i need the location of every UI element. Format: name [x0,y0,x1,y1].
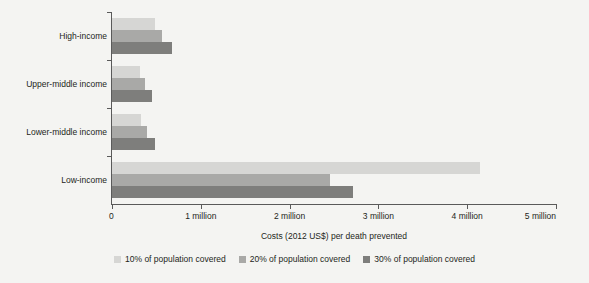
bar [112,162,480,174]
bar [112,114,141,126]
x-axis-tick [290,204,291,209]
legend-item: 30% of population covered [363,254,475,264]
bar [112,42,172,54]
bar [112,18,155,30]
x-axis-title: Costs (2012 US$) per death prevented [112,231,556,241]
legend-label: 30% of population covered [374,254,475,264]
bar [112,138,155,150]
x-axis-tick [467,204,468,209]
chart-figure: Country income level High-incomeUpper-mi… [0,0,589,283]
plot-area: 01 million2 million3 million4 million5 m… [112,12,556,204]
x-axis-tick [112,204,113,209]
bar [112,174,330,186]
x-axis-tick-label: 2 million [274,211,305,222]
x-axis-tick [556,204,557,209]
y-axis-tick [107,12,112,13]
legend-item: 20% of population covered [239,254,351,264]
legend-swatch-icon [363,256,370,263]
chart-legend: 10% of population covered20% of populati… [0,254,589,264]
x-axis-line [111,204,556,205]
legend-swatch-icon [114,256,121,263]
legend-item: 10% of population covered [114,254,226,264]
bar [112,78,145,90]
x-axis-tick [201,204,202,209]
y-axis-tick [107,156,112,157]
legend-swatch-icon [239,256,246,263]
bar [112,66,140,78]
x-axis-tick-label: 0 [109,211,114,222]
x-axis-tick [378,204,379,209]
x-axis-tick-label: 3 million [363,211,394,222]
category-label: Upper-middle income [14,79,107,89]
bar [112,126,147,138]
y-axis-tick [107,108,112,109]
category-label: Low-income [14,175,107,185]
category-label: High-income [14,31,107,41]
x-axis-tick-label: 1 million [185,211,216,222]
y-axis-tick [107,60,112,61]
bar [112,90,152,102]
category-label: Lower-middle income [14,127,107,137]
legend-label: 20% of population covered [250,254,351,264]
category-axis-labels: High-incomeUpper-middle incomeLower-midd… [14,12,107,204]
legend-label: 10% of population covered [125,254,226,264]
bar [112,186,353,198]
x-axis-tick-label: 5 million [525,211,556,222]
x-axis-tick-label: 4 million [452,211,483,222]
bar [112,30,162,42]
